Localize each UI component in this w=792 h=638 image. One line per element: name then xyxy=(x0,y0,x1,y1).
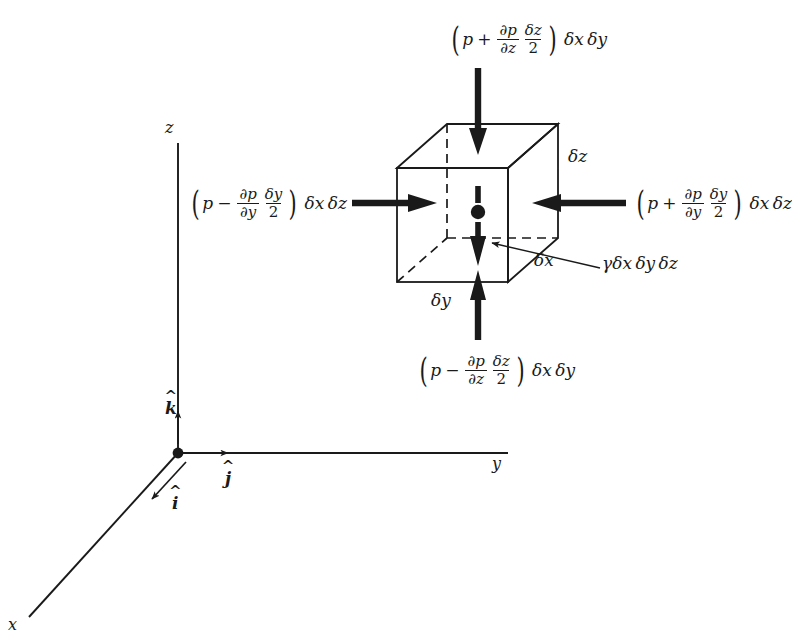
bottom-partial-frac: ∂p ∂z xyxy=(464,353,487,386)
paren-open: ( xyxy=(637,186,645,220)
edge-label-dx: δx xyxy=(534,252,554,269)
dx-var: x xyxy=(544,250,554,270)
weight-arrow xyxy=(470,186,486,266)
top-partial-den: ∂z xyxy=(497,39,519,56)
right-force-arrow xyxy=(532,194,626,212)
dz-delta: δ xyxy=(568,146,578,166)
z-axis-label: z xyxy=(165,120,173,136)
bottom-p: p xyxy=(430,362,441,379)
dx-delta: δ xyxy=(534,250,544,270)
bottom-area: δx δy xyxy=(532,362,575,379)
k-hat-caret: ^ xyxy=(165,389,178,404)
paren-close: ) xyxy=(734,186,742,220)
paren-open: ( xyxy=(420,353,428,387)
paren-close: ) xyxy=(548,22,556,56)
bottom-force-arrow xyxy=(470,270,486,340)
weight-gamma: γ xyxy=(602,253,612,273)
x-axis-label: x xyxy=(8,617,17,633)
dy-delta: δ xyxy=(431,290,441,310)
y-axis-label: y xyxy=(492,456,501,472)
left-partial-frac: ∂p ∂y xyxy=(236,186,259,219)
paren-close: ) xyxy=(289,186,297,220)
right-delta-den: 2 xyxy=(711,203,727,220)
right-partial-num: ∂p xyxy=(681,186,704,202)
top-delta-frac: δz 2 xyxy=(522,22,545,55)
left-delta-num: δy xyxy=(262,186,286,202)
top-partial-frac: ∂p ∂z xyxy=(496,22,519,55)
top-partial-num: ∂p xyxy=(496,22,519,38)
left-partial-num: ∂p xyxy=(236,186,259,202)
i-hat-glyph: ^i xyxy=(172,493,178,513)
right-partial-frac: ∂p ∂y xyxy=(681,186,704,219)
i-hat-label: ^i xyxy=(172,495,178,512)
paren-open: ( xyxy=(452,22,460,56)
bottom-partial-num: ∂p xyxy=(464,353,487,369)
left-partial-den: ∂y xyxy=(237,203,259,220)
right-p: p xyxy=(647,195,658,212)
edge-label-dz: δz xyxy=(568,148,587,165)
right-force-label: ( p + ∂p ∂y δy 2 ) δx δz xyxy=(634,186,792,220)
top-area: δx δy xyxy=(564,31,607,48)
top-force-label: ( p + ∂p ∂z δz 2 ) δx δy xyxy=(449,22,607,56)
paren-close: ) xyxy=(516,353,524,387)
top-p: p xyxy=(462,31,473,48)
weight-label: γδx δy δz xyxy=(602,255,678,272)
right-area: δx δz xyxy=(750,195,792,212)
right-delta-num: δy xyxy=(707,186,731,202)
x-axis xyxy=(29,453,178,617)
weight-volume: δx δy δz xyxy=(612,253,678,273)
bottom-force-label: ( p − ∂p ∂z δz 2 ) δx δy xyxy=(417,353,575,387)
paren-open: ( xyxy=(192,186,200,220)
i-hat-caret: ^ xyxy=(169,484,182,499)
dz-var: z xyxy=(578,146,587,166)
k-hat-label: ^k xyxy=(165,400,177,417)
top-sign: + xyxy=(477,31,491,48)
left-force-arrow xyxy=(352,194,437,212)
top-delta-num: δz xyxy=(522,22,545,38)
dy-var: y xyxy=(441,290,451,310)
left-delta-den: 2 xyxy=(266,203,282,220)
left-force-label: ( p − ∂p ∂y δy 2 ) δx δz xyxy=(189,186,347,220)
j-hat-caret: ^ xyxy=(222,459,235,474)
right-delta-frac: δy 2 xyxy=(707,186,731,219)
left-area: δx δz xyxy=(305,195,347,212)
origin-dot xyxy=(173,448,184,459)
edge-label-dy: δy xyxy=(431,292,451,309)
top-delta-den: 2 xyxy=(525,39,541,56)
k-hat-glyph: ^k xyxy=(165,398,177,418)
bottom-sign: − xyxy=(445,362,459,379)
element-center-dot xyxy=(471,205,485,219)
right-sign: + xyxy=(662,195,676,212)
left-delta-frac: δy 2 xyxy=(262,186,286,219)
j-hat-label: ^j xyxy=(225,470,231,487)
bottom-delta-frac: δz 2 xyxy=(490,353,513,386)
bottom-partial-den: ∂z xyxy=(465,370,487,387)
left-p: p xyxy=(202,195,213,212)
bottom-delta-den: 2 xyxy=(493,370,509,387)
left-sign: − xyxy=(217,195,231,212)
top-force-arrow xyxy=(469,68,487,155)
right-partial-den: ∂y xyxy=(682,203,704,220)
bottom-delta-num: δz xyxy=(490,353,513,369)
j-hat-glyph: ^j xyxy=(225,468,231,488)
